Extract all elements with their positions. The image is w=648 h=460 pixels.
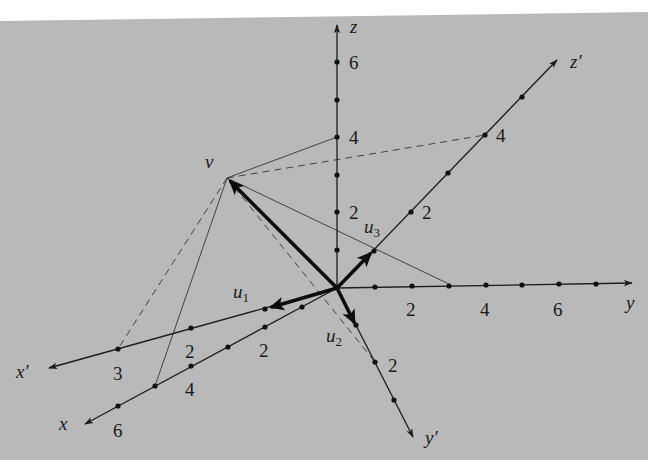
- z-axis-label: z: [349, 16, 358, 37]
- y-axis-label: y: [624, 292, 635, 313]
- x-prime-tick-3: 3: [113, 363, 123, 384]
- z-tick-2: 2: [349, 202, 359, 223]
- z-tick-4: 4: [349, 127, 359, 148]
- background-panel: [0, 12, 648, 460]
- x-axis-label: x: [58, 413, 68, 434]
- x-prime-tick-2: 2: [185, 341, 195, 362]
- y-prime-axis-label: y′: [423, 427, 438, 448]
- coordinate-diagram: z y x x′ y′ z′ 2 4 6 2 4 6 2 4 6 2 3 2 2…: [0, 0, 648, 460]
- v-label: v: [205, 151, 214, 172]
- z-prime-tick-2: 2: [422, 202, 432, 223]
- x-prime-axis-label: x′: [15, 361, 29, 382]
- x-tick-2: 2: [259, 340, 269, 361]
- y-tick-6: 6: [553, 299, 563, 320]
- z-prime-tick-4: 4: [496, 125, 506, 146]
- y-tick-4: 4: [480, 299, 490, 320]
- z-tick-6: 6: [349, 52, 359, 73]
- y-tick-2: 2: [406, 299, 416, 320]
- y-prime-tick-2: 2: [388, 355, 398, 376]
- x-tick-6: 6: [113, 420, 123, 441]
- x-tick-4: 4: [185, 379, 195, 400]
- z-prime-axis-label: z′: [569, 51, 582, 72]
